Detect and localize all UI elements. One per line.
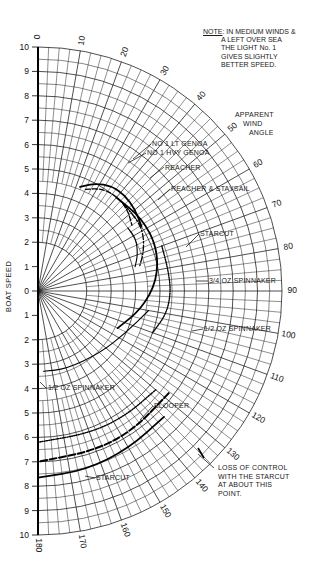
speed-tick-label: 4 [24, 384, 29, 394]
angle-tick-label: 170 [77, 533, 89, 549]
label-blooper: BLOOPER [154, 402, 189, 410]
leader-line [140, 406, 153, 420]
note-annotation: NOTE: IN MEDIUM WINDS & A LEFT OVER SEA … [203, 28, 310, 69]
angle-tick-label: 10 [76, 35, 88, 46]
angle-tick-label: 130 [225, 445, 243, 462]
speed-tick-label: 6 [24, 140, 29, 150]
sail-curve [80, 184, 141, 226]
leader-line [198, 454, 214, 468]
speed-tick-label: 2 [24, 335, 29, 345]
label-no1-hvy-genoa: No 1 HVY GENOA [147, 149, 210, 157]
angle-tick-label: 140 [194, 477, 211, 495]
label-reacher: REACHER [165, 164, 201, 172]
angle-spoke [59, 335, 141, 512]
label-three-quarter-oz-spinnaker: 3/4 OZ SPINNAKER [209, 277, 276, 285]
speed-tick-label: 9 [24, 66, 29, 76]
angle-spoke [82, 312, 259, 394]
speed-tick-label: 1 [24, 310, 29, 320]
angle-spoke [51, 338, 102, 527]
angle-tick-label: 90 [288, 285, 298, 295]
apparent-wind-angle-title: APPARENT WIND ANGLE [235, 110, 274, 137]
angle-spoke [85, 228, 274, 279]
speed-tick-label: 4 [24, 188, 29, 198]
speed-tick-label: 8 [24, 481, 29, 491]
leader-line [186, 234, 199, 247]
angle-spoke [51, 55, 102, 244]
label-no1-lt-genoa: No 1 LT GENOA [152, 140, 208, 148]
angle-spoke [112, 111, 203, 210]
angle-tick-label: 180 [34, 538, 44, 552]
speed-tick-label: 3 [24, 359, 29, 369]
speed-tick-label: 7 [24, 115, 29, 125]
boat-speed-axis-label: BOAT SPEED [4, 261, 13, 312]
angle-tick-label: 30 [158, 64, 172, 77]
angle-spoke [59, 70, 141, 247]
speed-tick-label: 10 [20, 530, 30, 540]
leader-line [85, 476, 95, 478]
sail-curve [128, 228, 137, 267]
label-reacher-staysail: REACHER & STAYSAIL [171, 185, 250, 193]
label-half-oz-spinnaker-right: 1/2 OZ SPINNAKER [204, 325, 271, 333]
speed-tick-label: 10 [20, 42, 30, 52]
angle-tick-label: 110 [269, 370, 285, 384]
speed-tick-label: 2 [24, 237, 29, 247]
speed-tick-label: 0 [24, 286, 29, 296]
angle-spoke [43, 47, 49, 181]
angle-spoke [42, 48, 59, 242]
speed-tick-label: 6 [24, 432, 29, 442]
angle-tick-label: 150 [158, 502, 174, 520]
note-head: NOTE [203, 28, 222, 35]
leader-line [192, 329, 203, 331]
angle-tick-label: 80 [283, 240, 294, 252]
angle-tick-label: 20 [118, 45, 131, 58]
angle-tick-label: 70 [270, 197, 283, 210]
angle-tick-label: 40 [194, 89, 208, 103]
label-starcut-lower: STARCUT [96, 474, 130, 482]
speed-tick-label: 3 [24, 213, 29, 223]
sail-curves [38, 184, 170, 478]
angle-spoke [87, 295, 281, 312]
angle-tick-label: 60 [251, 156, 264, 170]
speed-axis: 10987654321012345678910 [20, 42, 38, 540]
angle-spoke [148, 296, 282, 302]
speed-tick-label: 5 [24, 408, 29, 418]
angle-spoke [112, 372, 203, 471]
angle-tick-label: 160 [119, 521, 133, 538]
leader-line [40, 382, 46, 388]
label-starcut: STARCUT [200, 230, 234, 238]
angle-tick-label: 100 [281, 328, 297, 340]
angle-tick-label: 120 [250, 410, 268, 426]
leader-line [128, 153, 146, 163]
speed-tick-label: 7 [24, 457, 29, 467]
loss-of-control-annotation: LOSS OF CONTROL WITH THE STARCUT AT ABOU… [218, 464, 289, 498]
speed-tick-label: 1 [24, 262, 29, 272]
speed-tick-label: 9 [24, 506, 29, 516]
label-half-oz-spinnaker-left: 1/2 OZ SPINNAKER [48, 384, 115, 392]
angle-spoke [71, 58, 111, 186]
angle-tick-label: 0 [32, 34, 42, 39]
speed-tick-label: 8 [24, 91, 29, 101]
sail-curve [44, 310, 149, 371]
leader-line [158, 189, 170, 200]
angle-spoke [42, 340, 59, 534]
angle-spoke [43, 401, 49, 535]
speed-tick-label: 5 [24, 164, 29, 174]
